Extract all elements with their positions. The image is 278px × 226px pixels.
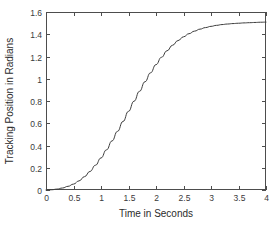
y-tick-label: 0.4 <box>30 142 42 152</box>
y-tick-label: 1.2 <box>30 53 42 63</box>
y-tick-label: 1.4 <box>30 30 42 40</box>
y-tick-label: 0 <box>37 186 42 196</box>
x-tick-label: 3 <box>209 193 214 203</box>
y-tick-label: 0.8 <box>30 97 42 107</box>
x-tick-label: 1.5 <box>124 193 136 203</box>
x-axis-title: Time in Seconds <box>119 208 193 219</box>
x-tick-label: 2.5 <box>179 193 191 203</box>
line-chart: 00.511.522.533.54 00.20.40.60.811.21.41.… <box>0 0 278 226</box>
x-tick-label: 0.5 <box>69 193 81 203</box>
x-tick-label: 0 <box>44 193 49 203</box>
x-tick-label: 1 <box>99 193 104 203</box>
y-axis-tick-labels: 00.20.40.60.811.21.41.6 <box>30 8 42 196</box>
y-axis-title: Tracking Position in Radians <box>4 38 15 164</box>
x-tick-label: 2 <box>154 193 159 203</box>
x-tick-label: 4 <box>264 193 269 203</box>
y-tick-label: 1.6 <box>30 8 42 18</box>
x-axis-tick-labels: 00.511.522.533.54 <box>44 193 269 203</box>
x-tick-label: 3.5 <box>234 193 246 203</box>
y-tick-label: 0.2 <box>30 164 42 174</box>
y-tick-label: 1 <box>37 75 42 85</box>
chart-figure: 00.511.522.533.54 00.20.40.60.811.21.41.… <box>0 0 278 226</box>
y-tick-label: 0.6 <box>30 119 42 129</box>
